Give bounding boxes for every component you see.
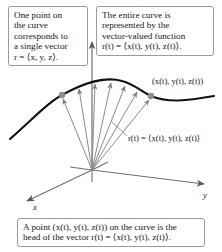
callout-left-line: the curve xyxy=(14,20,83,30)
position-vector xyxy=(92,86,125,170)
curve-point-label: (x(t), y(t), z(t)) xyxy=(152,76,203,86)
y-axis xyxy=(92,170,204,184)
y-axis-label: y xyxy=(203,190,207,200)
callout-right-line: The entire curve is xyxy=(102,10,209,20)
position-vector-fan xyxy=(63,83,149,170)
y-axis-stub xyxy=(70,167,92,170)
callout-left-line: One point on xyxy=(14,10,83,20)
curve-point-marker xyxy=(59,92,65,98)
callout-left-line: r = ⟨x, y, z⟩. xyxy=(14,52,83,62)
callout-left: One point on the curve corresponds to a … xyxy=(8,6,88,66)
curve-point-marker xyxy=(148,93,154,99)
callout-left-line: a single vector xyxy=(14,41,83,51)
callout-left-line: corresponds to xyxy=(14,31,83,41)
callout-right-line: represented by the xyxy=(102,20,209,30)
vector-equation-label: r(t) = ⟨x(t), y(t), z(t)⟩ xyxy=(128,133,200,143)
callout-bottom: A point (x(t), y(t), z(t)) on the curve … xyxy=(17,218,205,247)
callout-right: The entire curve is represented by the v… xyxy=(96,6,214,56)
space-curve xyxy=(10,79,214,139)
callout-bottom-line: head of the vector r(t) = ⟨x(t), y(t), z… xyxy=(23,232,200,242)
x-axis-label: x xyxy=(33,202,37,212)
vector-function-figure: z y x (x(t), y(t), z(t)) r(t) = ⟨x(t), y… xyxy=(0,0,222,252)
x-axis xyxy=(27,170,92,201)
callout-right-line: r(t) = ⟨x(t), y(t), z(t)⟩. xyxy=(102,41,209,51)
callout-right-line: vector-valued function xyxy=(102,31,209,41)
position-vector xyxy=(92,92,137,170)
callout-bottom-line: A point (x(t), y(t), z(t)) on the curve … xyxy=(23,222,200,232)
position-vector xyxy=(63,99,92,170)
position-vector xyxy=(79,89,92,170)
